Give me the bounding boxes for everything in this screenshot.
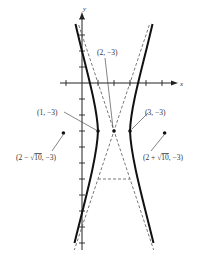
- hyperbola-figure: x y: [0, 0, 212, 258]
- center-point: [112, 129, 116, 133]
- svg-text:(2 + √10, −3): (2 + √10, −3): [143, 153, 184, 162]
- vertex-left-label: (1, −3): [37, 108, 58, 117]
- x-axis: x: [60, 80, 184, 88]
- focus-left-label: (2 − √10, −3): [16, 153, 57, 162]
- vertex-right-label: (3, −3): [145, 108, 166, 117]
- points: [62, 129, 167, 135]
- asymptotes: [74, 25, 153, 250]
- asymptote-negative-slope: [79, 25, 154, 250]
- right-branch: [130, 24, 154, 243]
- asymptote-positive-slope: [74, 25, 149, 250]
- vertex-right-point: [128, 129, 132, 133]
- center-label: (2, −3): [97, 48, 118, 57]
- focus-right-label: (2 + √10, −3): [143, 153, 184, 162]
- x-axis-label: x: [179, 80, 184, 88]
- focus-left-point: [62, 131, 66, 135]
- leader-lines: [52, 58, 164, 151]
- svg-text:(2 − √10, −3): (2 − √10, −3): [16, 153, 57, 162]
- y-axis-label: y: [82, 5, 87, 13]
- focus-right-point: [163, 131, 167, 135]
- vertex-left-point: [96, 129, 100, 133]
- left-branch: [75, 24, 99, 243]
